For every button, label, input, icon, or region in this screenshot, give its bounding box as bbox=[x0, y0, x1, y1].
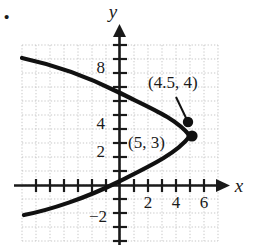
x-tick-label-2: 2 bbox=[144, 193, 153, 212]
point-label-5-3: (5, 3) bbox=[128, 133, 165, 152]
y-tick-label-2: 2 bbox=[97, 142, 106, 161]
x-tick-label-4: 4 bbox=[172, 193, 181, 212]
plotted-point-5-3 bbox=[186, 130, 197, 141]
y-axis-label: y bbox=[107, 1, 118, 22]
plotted-point-4-5-4 bbox=[183, 117, 193, 127]
x-axis-label: x bbox=[234, 175, 244, 196]
x-tick-label-6: 6 bbox=[200, 193, 209, 212]
y-tick-label-8: 8 bbox=[97, 58, 106, 77]
leader-line-4-5-4 bbox=[176, 97, 187, 120]
figure-container: y x 2 4 6 8 4 2 −2 (4.5, 4) (5, 3) • bbox=[0, 0, 254, 251]
problem-number-marker: • bbox=[4, 9, 9, 25]
parabola-graph: y x 2 4 6 8 4 2 −2 (4.5, 4) (5, 3) • bbox=[0, 0, 254, 251]
x-axis-arrow bbox=[216, 179, 230, 192]
y-axis-arrow bbox=[113, 24, 126, 37]
axes bbox=[14, 24, 230, 245]
y-tick-label-minus-2: −2 bbox=[89, 207, 107, 226]
point-label-4-5-4: (4.5, 4) bbox=[148, 73, 198, 92]
y-tick-label-4: 4 bbox=[97, 114, 106, 133]
